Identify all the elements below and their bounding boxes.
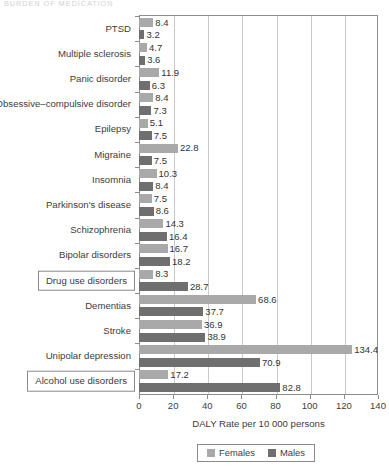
bar-row: 8.43.2	[139, 16, 378, 41]
bar-males[interactable]	[139, 333, 205, 342]
bar-males[interactable]	[139, 131, 152, 140]
bar-row: 22.87.5	[139, 142, 378, 167]
bar-group: 16.4	[139, 230, 378, 243]
x-axis-tick	[139, 395, 140, 399]
bar-group: 4.7	[139, 41, 378, 54]
bar-group: 28.7	[139, 280, 378, 293]
bar-value-label: 10.3	[159, 169, 178, 179]
bar-value-label: 36.9	[204, 320, 223, 330]
bar-value-label: 16.7	[170, 244, 189, 254]
bar-females[interactable]	[139, 18, 153, 27]
bar-females[interactable]	[139, 295, 256, 304]
bar-value-label: 16.4	[169, 232, 188, 242]
category-label: Dementias	[85, 301, 131, 311]
bar-group: 3.6	[139, 54, 378, 67]
bar-females[interactable]	[139, 244, 168, 253]
category-label: Epilepsy	[95, 125, 131, 135]
bar-males[interactable]	[139, 81, 150, 90]
bar-value-label: 68.6	[258, 295, 277, 305]
bar-group: 82.8	[139, 381, 378, 394]
bar-females[interactable]	[139, 320, 202, 329]
bar-group: 10.3	[139, 167, 378, 180]
bar-males[interactable]	[139, 30, 144, 39]
bar-value-label: 7.5	[154, 131, 167, 141]
legend-label: Males	[280, 448, 305, 457]
x-axis-tick	[276, 395, 277, 399]
bar-value-label: 70.9	[262, 358, 281, 368]
bar-males[interactable]	[139, 106, 151, 115]
bar-value-label: 82.8	[282, 383, 301, 393]
bar-row: 134.470.9	[139, 343, 378, 368]
bar-group: 6.3	[139, 79, 378, 92]
bar-row: 14.316.4	[139, 218, 378, 243]
bar-group: 7.5	[139, 129, 378, 142]
bar-group: 36.9	[139, 318, 378, 331]
bar-males[interactable]	[139, 282, 188, 291]
bar-value-label: 28.7	[190, 282, 209, 292]
bar-value-label: 8.4	[155, 18, 168, 28]
category-label: Bipolar disorders	[59, 251, 131, 261]
bar-females[interactable]	[139, 43, 147, 52]
legend-item[interactable]: Males	[268, 448, 305, 457]
bar-group: 38.9	[139, 331, 378, 344]
bar-females[interactable]	[139, 270, 153, 279]
bar-value-label: 6.3	[152, 81, 165, 91]
category-label: Alcohol use disorders	[27, 371, 135, 392]
bar-value-label: 7.3	[153, 106, 166, 116]
bar-group: 11.9	[139, 66, 378, 79]
category-label: Migraine	[94, 150, 131, 160]
bar-row: 7.58.6	[139, 192, 378, 217]
running-head: BURDEN OF MEDICATION	[4, 0, 113, 8]
bar-group: 18.2	[139, 255, 378, 268]
category-label: Parkinson's disease	[46, 200, 131, 210]
bar-males[interactable]	[139, 257, 170, 266]
bar-value-label: 5.1	[150, 118, 163, 128]
bar-group: 134.4	[139, 343, 378, 356]
bar-value-label: 3.6	[147, 55, 160, 65]
bar-males[interactable]	[139, 207, 154, 216]
bar-row: 36.938.9	[139, 318, 378, 343]
bar-value-label: 8.4	[155, 181, 168, 191]
x-axis-tick	[173, 395, 174, 399]
bar-value-label: 4.7	[149, 43, 162, 53]
bar-females[interactable]	[139, 68, 159, 77]
x-axis-tick-label: 100	[302, 400, 318, 411]
bar-value-label: 7.5	[154, 194, 167, 204]
legend-item[interactable]: Females	[207, 448, 255, 457]
bar-males[interactable]	[139, 358, 260, 367]
bar-males[interactable]	[139, 307, 203, 316]
category-label-column: PTSDMultiple sclerosisPanic disorderObse…	[0, 16, 135, 394]
bar-group: 7.3	[139, 104, 378, 117]
bar-females[interactable]	[139, 219, 163, 228]
x-axis-ticks: 020406080100120140	[139, 395, 378, 403]
x-axis-tick-label: 140	[370, 400, 386, 411]
category-label: Unipolar depression	[46, 351, 131, 361]
bar-females[interactable]	[139, 370, 168, 379]
bar-row: 5.17.5	[139, 117, 378, 142]
bar-value-label: 17.2	[170, 370, 189, 380]
bar-row: 16.718.2	[139, 243, 378, 268]
bar-females[interactable]	[139, 345, 352, 354]
bar-value-label: 37.7	[205, 307, 224, 317]
bar-females[interactable]	[139, 194, 152, 203]
bar-males[interactable]	[139, 182, 153, 191]
bar-value-label: 3.2	[146, 30, 159, 40]
bar-males[interactable]	[139, 383, 280, 392]
bar-group: 16.7	[139, 243, 378, 256]
bar-males[interactable]	[139, 232, 167, 241]
bar-males[interactable]	[139, 56, 145, 65]
bar-row: 8.328.7	[139, 268, 378, 293]
bar-females[interactable]	[139, 169, 157, 178]
bar-group: 8.4	[139, 16, 378, 29]
bar-females[interactable]	[139, 144, 178, 153]
x-axis-tick	[378, 395, 379, 399]
x-axis-tick-label: 80	[270, 400, 281, 411]
bar-females[interactable]	[139, 119, 148, 128]
bar-males[interactable]	[139, 156, 152, 165]
legend-label: Females	[219, 448, 255, 457]
bar-females[interactable]	[139, 93, 153, 102]
bar-group: 5.1	[139, 117, 378, 130]
category-label: Drug use disorders	[38, 270, 135, 291]
bar-value-label: 8.3	[155, 269, 168, 279]
bar-group: 8.4	[139, 180, 378, 193]
